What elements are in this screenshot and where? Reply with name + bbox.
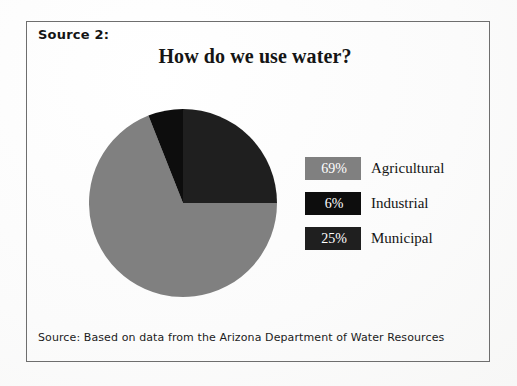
legend-percent-municipal: 25% [319,232,347,246]
legend-label-agricultural: Agricultural [371,160,444,177]
legend-swatch-agricultural: 69% [305,157,361,180]
legend-percent-industrial: 6% [323,197,344,211]
pie-slice-municipal [183,109,277,203]
legend-item-municipal: 25% Municipal [305,227,475,250]
legend-percent-agricultural: 69% [319,162,347,176]
chart-legend: 69% Agricultural 6% Industrial 25% Munic… [305,157,475,250]
legend-label-industrial: Industrial [371,195,429,212]
legend-swatch-municipal: 25% [305,227,361,250]
pie-chart [89,89,279,319]
chart-title: How do we use water? [60,45,450,68]
source-label: Source 2: [38,27,109,42]
legend-swatch-industrial: 6% [305,192,361,215]
legend-label-municipal: Municipal [371,230,433,247]
legend-item-industrial: 6% Industrial [305,192,475,215]
legend-item-agricultural: 69% Agricultural [305,157,475,180]
footer-source-note: Source: Based on data from the Arizona D… [38,331,444,344]
pie-chart-svg [89,89,279,319]
